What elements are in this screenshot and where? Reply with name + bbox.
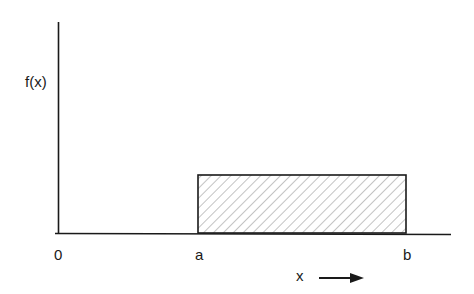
- hatched-area: [198, 175, 406, 233]
- right-arrow-icon: [319, 273, 364, 283]
- tick-label-origin: 0: [54, 247, 62, 262]
- x-axis: [55, 234, 451, 235]
- x-axis-label: x: [296, 268, 304, 283]
- tick-label-a: a: [195, 247, 203, 262]
- y-axis-label: f(x): [25, 74, 47, 89]
- tick-label-b: b: [403, 247, 411, 262]
